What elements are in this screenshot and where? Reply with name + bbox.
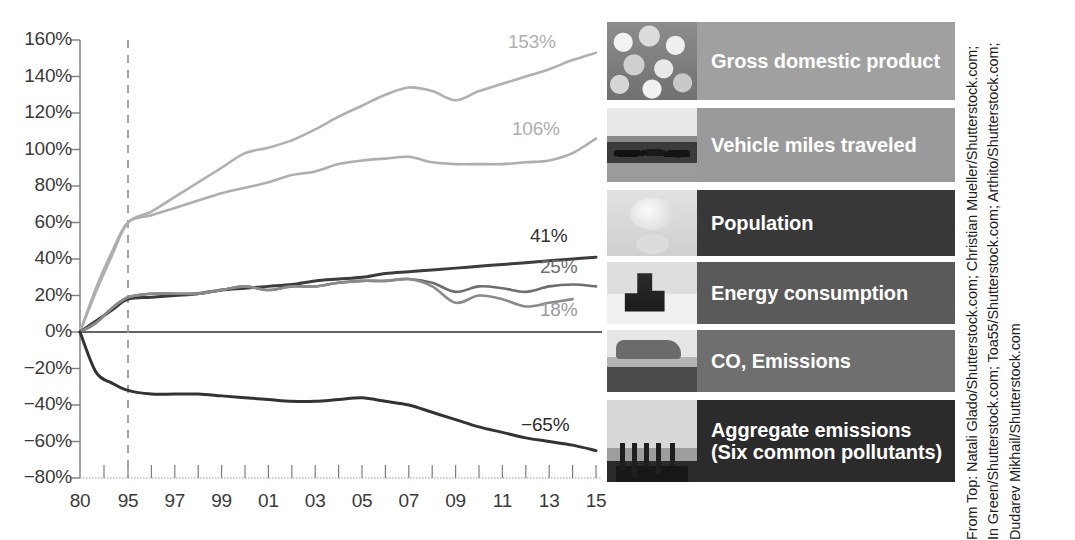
- legend-item[interactable]: Energy consumption: [607, 262, 955, 324]
- x-tick-label: 13: [527, 490, 571, 512]
- legend-item[interactable]: Aggregate emissions(Six common pollutant…: [607, 400, 955, 482]
- series-value-label: 18%: [540, 299, 577, 321]
- x-tick-label: 80: [58, 490, 102, 512]
- legend-item[interactable]: Gross domestic product: [607, 22, 955, 100]
- y-tick-label: 0%: [0, 320, 72, 342]
- legend-item-text: CO, Emissions: [697, 330, 955, 392]
- y-tick-label: 60%: [0, 211, 72, 233]
- legend-item-label: Gross domestic product: [711, 50, 955, 72]
- legend-item-text: Energy consumption: [697, 262, 955, 324]
- x-tick-label: 99: [200, 490, 244, 512]
- x-tick-label: 01: [246, 490, 290, 512]
- y-tick-label: −80%: [0, 466, 72, 488]
- x-tick-label: 97: [153, 490, 197, 512]
- smokestacks-photo: [607, 400, 697, 482]
- legend-item-text: Vehicle miles traveled: [697, 108, 955, 182]
- y-tick-label: 40%: [0, 247, 72, 269]
- coins-photo: [607, 22, 697, 100]
- legend-item-text: Gross domestic product: [697, 22, 955, 100]
- x-tick-label: 95: [106, 490, 150, 512]
- chart-svg: [0, 0, 620, 540]
- y-tick-label: 100%: [0, 138, 72, 160]
- x-tick-label: 07: [387, 490, 431, 512]
- y-tick-label: 160%: [0, 28, 72, 50]
- y-tick-label: −40%: [0, 393, 72, 415]
- fuel-pump-photo: [607, 262, 697, 324]
- legend-item-sublabel: (Six common pollutants): [711, 441, 955, 463]
- series-value-label: 153%: [508, 31, 556, 53]
- x-tick-label: 09: [434, 490, 478, 512]
- legend-item-label: CO, Emissions: [711, 350, 955, 372]
- series-value-label: 41%: [530, 225, 567, 247]
- legend-item-label: Vehicle miles traveled: [711, 134, 955, 156]
- legend-item-label: Population: [711, 212, 955, 234]
- x-tick-label: 05: [340, 490, 384, 512]
- y-tick-label: 140%: [0, 65, 72, 87]
- line-chart: 160%140%120%100%80%60%40%20%0%−20%−40%−6…: [0, 0, 620, 540]
- car-exhaust-photo: [607, 330, 697, 392]
- baby-photo: [607, 190, 697, 256]
- traffic-photo: [607, 108, 697, 182]
- series-value-label: 25%: [540, 256, 577, 278]
- legend-item-label: Aggregate emissions: [711, 419, 955, 441]
- y-tick-label: 120%: [0, 101, 72, 123]
- legend-panel: Gross domestic productVehicle miles trav…: [607, 0, 955, 540]
- photo-credit: From Top: Natali Glado/Shutterstock.com;…: [962, 0, 1070, 540]
- legend-item[interactable]: Population: [607, 190, 955, 256]
- series-value-label: −65%: [521, 414, 569, 436]
- legend-item-text: Population: [697, 190, 955, 256]
- legend-item-text: Aggregate emissions(Six common pollutant…: [697, 400, 955, 482]
- x-tick-label: 03: [293, 490, 337, 512]
- y-tick-label: 80%: [0, 174, 72, 196]
- legend-item[interactable]: CO, Emissions: [607, 330, 955, 392]
- legend-item[interactable]: Vehicle miles traveled: [607, 108, 955, 182]
- series-line-1: [80, 139, 596, 332]
- series-line-5: [80, 332, 596, 451]
- chart-page: 160%140%120%100%80%60%40%20%0%−20%−40%−6…: [0, 0, 1075, 540]
- y-tick-label: −20%: [0, 357, 72, 379]
- y-tick-label: −60%: [0, 430, 72, 452]
- y-tick-label: 20%: [0, 284, 72, 306]
- legend-item-label: Energy consumption: [711, 282, 955, 304]
- x-tick-label: 11: [480, 490, 524, 512]
- series-value-label: 106%: [512, 118, 560, 140]
